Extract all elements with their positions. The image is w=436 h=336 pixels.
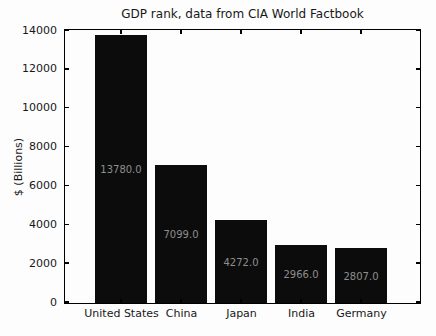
y-tick-label-10000: 10000	[0, 101, 57, 115]
y-tick-label-6000: 6000	[0, 179, 57, 193]
y-tick-left	[65, 68, 69, 69]
y-tick-label-0: 0	[0, 296, 57, 310]
x-tick-bottom	[360, 299, 361, 303]
y-tick-left	[65, 29, 69, 30]
bar-germany: 2807.0	[335, 248, 387, 303]
y-tick-left	[65, 107, 69, 108]
y-tick-left	[65, 224, 69, 225]
y-tick-label-2000: 2000	[0, 257, 57, 271]
y-tick-right	[416, 107, 420, 108]
x-tick-bottom	[240, 299, 241, 303]
y-tick-label-4000: 4000	[0, 218, 57, 232]
y-tick-left	[65, 301, 69, 302]
figure: GDP rank, data from CIA World Factbook $…	[0, 0, 436, 336]
bar-value-label-china: 7099.0	[155, 229, 207, 240]
x-tick-top	[360, 30, 361, 34]
x-tick-top	[180, 30, 181, 34]
y-tick-left	[65, 262, 69, 263]
y-tick-label-14000: 14000	[0, 24, 57, 38]
bar-united-states: 13780.0	[95, 35, 147, 303]
plot-area: 13780.07099.04272.02966.02807.0	[64, 29, 421, 304]
y-tick-right	[416, 301, 420, 302]
x-tick-label-germany: Germany	[317, 307, 407, 320]
bar-india: 2966.0	[275, 245, 327, 303]
y-tick-label-8000: 8000	[0, 140, 57, 154]
x-tick-top	[300, 30, 301, 34]
bar-value-label-japan: 4272.0	[215, 256, 267, 267]
y-tick-right	[416, 262, 420, 263]
bar-value-label-united-states: 13780.0	[95, 164, 147, 175]
x-tick-top	[120, 30, 121, 34]
chart-title: GDP rank, data from CIA World Factbook	[64, 7, 421, 21]
bar-china: 7099.0	[155, 165, 207, 303]
y-tick-right	[416, 68, 420, 69]
y-axis-label: $ (Billions)	[12, 107, 28, 227]
y-tick-right	[416, 146, 420, 147]
x-tick-bottom	[300, 299, 301, 303]
y-tick-right	[416, 29, 420, 30]
y-tick-right	[416, 224, 420, 225]
x-tick-top	[240, 30, 241, 34]
x-tick-bottom	[180, 299, 181, 303]
x-tick-bottom	[120, 299, 121, 303]
bar-japan: 4272.0	[215, 220, 267, 303]
y-tick-label-12000: 12000	[0, 62, 57, 76]
bar-value-label-germany: 2807.0	[335, 270, 387, 281]
y-tick-left	[65, 146, 69, 147]
y-tick-right	[416, 185, 420, 186]
y-tick-left	[65, 185, 69, 186]
bar-value-label-india: 2966.0	[275, 269, 327, 280]
